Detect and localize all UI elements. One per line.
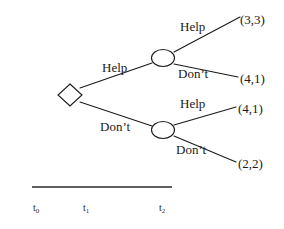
timeline-tick-t1-sub: 1 <box>86 207 90 215</box>
edge-label-upper-help: Help <box>180 20 205 33</box>
edge-label-upper-dont: Don’t <box>178 67 208 80</box>
timeline-tick-t2: t2 <box>159 203 165 214</box>
payoff-label-1: (3,3) <box>240 13 265 26</box>
timeline-tick-t1: t1 <box>83 203 89 214</box>
node-lower-circle <box>152 122 175 139</box>
payoff-label-2: (4,1) <box>240 72 265 85</box>
node-upper-circle <box>152 50 175 67</box>
timeline-tick-t2-sub: 2 <box>162 207 166 215</box>
timeline-tick-t0: t0 <box>33 203 39 214</box>
node-root-diamond <box>58 84 82 106</box>
edge-label-root-help: Help <box>102 61 127 74</box>
timeline-tick-t0-sub: 0 <box>36 207 40 215</box>
edge-label-lower-dont: Don’t <box>176 143 206 156</box>
payoff-label-3: (4,1) <box>238 102 263 115</box>
game-tree-figure: Help Don’t Help Don’t Help Don’t (3,3) (… <box>0 0 284 229</box>
edge-label-lower-help: Help <box>180 97 205 110</box>
payoff-label-4: (2,2) <box>238 157 263 170</box>
edge-label-root-dont: Don’t <box>100 120 130 133</box>
